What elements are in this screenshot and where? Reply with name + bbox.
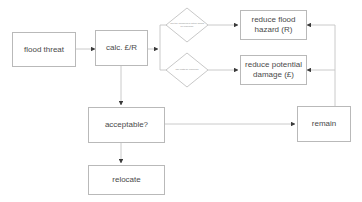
flowchart-canvas: flood threat calc. £/R can the likelihoo…	[0, 0, 362, 202]
node-relocate[interactable]: relocate	[88, 165, 165, 195]
node-calc[interactable]: calc. £/R	[95, 30, 148, 66]
node-reduce-damage-label: reduce potential damage (£)	[241, 60, 306, 80]
node-decision-hazard[interactable]: can the likelihood of future floods be r…	[165, 7, 209, 43]
node-calc-label: calc. £/R	[104, 43, 139, 53]
node-acceptable-label: acceptable?	[103, 120, 150, 130]
node-remain-label: remain	[310, 119, 338, 129]
node-decision-damage[interactable]: can costs be reduced?	[165, 52, 209, 88]
node-reduce-hazard-label: reduce flood hazard (R)	[241, 15, 306, 35]
node-reduce-damage[interactable]: reduce potential damage (£)	[240, 55, 307, 85]
node-remain[interactable]: remain	[297, 106, 351, 142]
node-flood-threat-label: flood threat	[22, 45, 66, 55]
node-acceptable[interactable]: acceptable?	[88, 107, 165, 143]
node-relocate-label: relocate	[110, 175, 142, 185]
node-flood-threat[interactable]: flood threat	[12, 32, 76, 67]
node-decision-hazard-label: can the likelihood of future floods be r…	[170, 22, 204, 28]
node-reduce-hazard[interactable]: reduce flood hazard (R)	[240, 10, 307, 40]
node-decision-damage-label: can costs be reduced?	[170, 68, 204, 71]
